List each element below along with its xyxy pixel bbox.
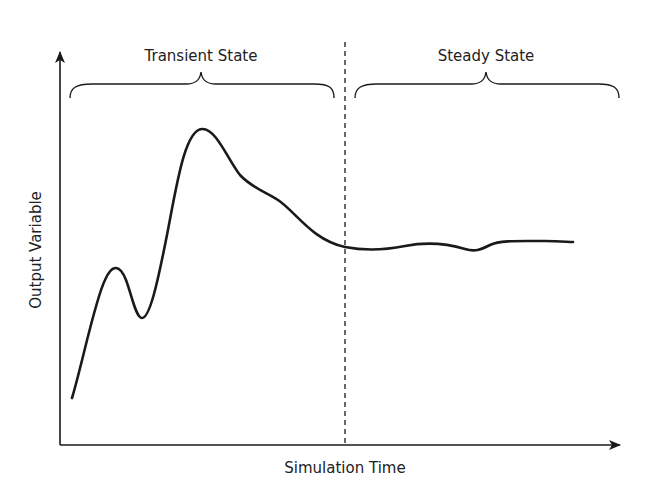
transient-state-brace bbox=[70, 72, 334, 98]
x-axis-label: Simulation Time bbox=[284, 459, 405, 477]
simulation-transient-steady-diagram: Transient State Steady State Simulation … bbox=[0, 0, 648, 497]
output-variable-curve bbox=[72, 129, 573, 398]
steady-state-label: Steady State bbox=[438, 47, 535, 65]
steady-state-brace bbox=[355, 72, 619, 98]
transient-state-label: Transient State bbox=[144, 47, 258, 65]
y-axis-label: Output Variable bbox=[27, 191, 45, 309]
